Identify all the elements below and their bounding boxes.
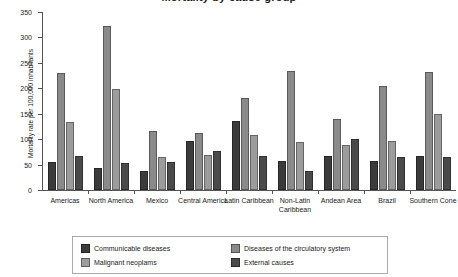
bar [232, 121, 240, 190]
legend-swatch-icon [81, 258, 90, 267]
legend-swatch-icon [81, 244, 90, 253]
bar [186, 141, 194, 190]
bar [57, 73, 65, 190]
bar-group: Mexico [134, 12, 180, 190]
bar [388, 141, 396, 190]
bar-group: Latin Caribbean [226, 12, 272, 190]
bar [324, 156, 332, 190]
bar [121, 163, 129, 190]
bars [88, 12, 134, 190]
y-tick: 0 [38, 190, 42, 191]
bar-group: Americas [42, 12, 88, 190]
bar [158, 157, 166, 190]
bar [94, 168, 102, 190]
bar [333, 119, 341, 190]
bars [226, 12, 272, 190]
x-tick [226, 190, 227, 194]
bar-group: Southern Cone [410, 12, 456, 190]
bar [48, 162, 56, 190]
bar [278, 161, 286, 190]
legend-item[interactable]: Communicable diseases [81, 241, 231, 255]
bar [195, 133, 203, 190]
legend-item-label: Malignant neoplams [94, 259, 157, 266]
x-tick-label: Southern Cone [401, 196, 458, 205]
legend-item-label: Diseases of the circulatory system [244, 245, 350, 252]
legend-item-label: Communicable diseases [94, 245, 170, 252]
bar [112, 89, 120, 190]
bar-group: Brazil [364, 12, 410, 190]
chart-legend: Communicable diseasesDiseases of the cir… [72, 236, 388, 274]
bars [180, 12, 226, 190]
bar-group: Central America [180, 12, 226, 190]
bar [213, 151, 221, 190]
bar [259, 156, 267, 190]
x-tick [272, 190, 273, 194]
bar [287, 71, 295, 191]
y-tick-label: 300 [20, 34, 32, 41]
bar [250, 135, 258, 190]
bar [296, 142, 304, 190]
bar [149, 131, 157, 191]
bar [370, 161, 378, 190]
bar [305, 171, 313, 190]
x-tick [364, 190, 365, 194]
bar [351, 139, 359, 190]
bar [379, 86, 387, 190]
legend-item[interactable]: External causes [231, 255, 381, 269]
x-tick [318, 190, 319, 194]
bars [42, 12, 88, 190]
bar [75, 156, 83, 190]
bar [167, 162, 175, 190]
y-tick-label: 150 [20, 110, 32, 117]
bar [416, 156, 424, 190]
bars [134, 12, 180, 190]
y-tick-label: 100 [20, 136, 32, 143]
legend-item-label: External causes [244, 259, 294, 266]
x-axis-line [42, 190, 456, 191]
legend-swatch-icon [231, 244, 240, 253]
bar [443, 157, 451, 190]
legend-item[interactable]: Malignant neoplams [81, 255, 231, 269]
bars [410, 12, 456, 190]
y-tick-label: 0 [28, 187, 32, 194]
bars [318, 12, 364, 190]
bar-group: Non-Latin Caribbean [272, 12, 318, 190]
x-tick [88, 190, 89, 194]
x-tick [410, 190, 411, 194]
x-tick [134, 190, 135, 194]
bar [103, 26, 111, 190]
y-tick-label: 350 [20, 9, 32, 16]
y-tick-label: 200 [20, 85, 32, 92]
y-tick-label: 250 [20, 59, 32, 66]
x-tick [180, 190, 181, 194]
bar [140, 171, 148, 190]
bar-group: North America [88, 12, 134, 190]
bar [342, 145, 350, 190]
bar [397, 157, 405, 190]
bar [434, 114, 442, 190]
bar [241, 98, 249, 190]
bars [272, 12, 318, 190]
bar [425, 72, 433, 190]
plot-area: 050100150200250300350 AmericasNorth Amer… [42, 12, 456, 190]
legend-swatch-icon [231, 258, 240, 267]
chart-title: Mortality by cause group [0, 0, 458, 3]
bar-group: Andean Area [318, 12, 364, 190]
bars [364, 12, 410, 190]
bar [66, 122, 74, 190]
bar [204, 155, 212, 190]
bar-chart: Mortality by cause group Mortality rate … [0, 0, 458, 277]
legend-item[interactable]: Diseases of the circulatory system [231, 241, 381, 255]
y-tick-label: 50 [24, 161, 32, 168]
